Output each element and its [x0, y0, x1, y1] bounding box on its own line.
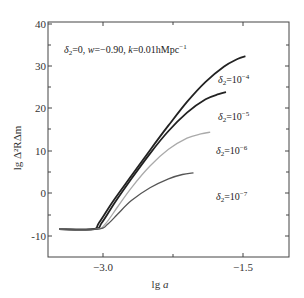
curve-label-1e-7: δ2=10−7: [216, 190, 248, 204]
x-tick-label: −3.0: [93, 261, 113, 273]
x-ticks: [103, 22, 243, 257]
x-axis-label: lg a: [152, 278, 169, 290]
chart: 40 30 20 10 0 -10 −3.0 −1.5 lg a lg Δ²RΔ…: [0, 0, 304, 298]
curve-label-1e-6: δ2=10−6: [216, 144, 248, 158]
y-tick-label: -10: [31, 230, 46, 242]
y-axis-label: lg Δ²RΔm: [11, 125, 23, 170]
x-tick-label: −1.5: [233, 261, 253, 273]
curve-series-3: [59, 132, 210, 229]
curve-label-1e-4: δ2=10−4: [218, 73, 250, 87]
plot-frame: [48, 22, 289, 257]
y-tick-label: 0: [41, 187, 47, 199]
y-tick-label: 40: [35, 18, 47, 30]
y-tick-label: 20: [35, 102, 47, 114]
y-tick-label: 10: [35, 145, 47, 157]
y-tick-label: 30: [35, 60, 47, 72]
parameter-annotation: δ2=0, w=−0.90, k=0.01hMpc−1: [64, 43, 187, 57]
curve-label-1e-5: δ2=10−5: [218, 110, 250, 124]
